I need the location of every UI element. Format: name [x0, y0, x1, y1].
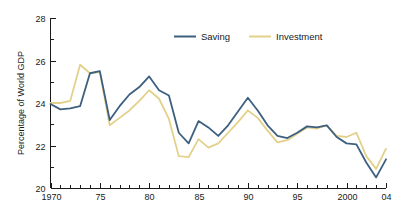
y-tick-label: 26	[35, 57, 45, 67]
y-tick-label: 22	[35, 142, 45, 152]
x-tick-label: 90	[243, 192, 253, 202]
chart-container: Percentage of World GDP 2022242628 19707…	[0, 0, 402, 217]
y-tick-label: 28	[35, 14, 45, 24]
chart-legend: Saving Investment	[174, 31, 323, 42]
x-tick-label: 95	[292, 192, 302, 202]
x-tick-label: 2000	[337, 192, 357, 202]
x-tick-label: 80	[144, 192, 154, 202]
x-axis-ticks	[52, 183, 387, 188]
x-tick-label: 85	[194, 192, 204, 202]
legend-label-investment: Investment	[276, 31, 323, 42]
x-tick-label: 1970	[41, 192, 61, 202]
x-tick-label: 75	[95, 192, 105, 202]
saving-investment-line-chart: Percentage of World GDP 2022242628 19707…	[0, 0, 402, 217]
data-series-group	[51, 65, 387, 178]
y-axis-tick-labels: 2022242628	[35, 14, 45, 194]
y-axis-title: Percentage of World GDP	[16, 51, 26, 155]
series-line-saving	[51, 71, 387, 177]
x-axis-tick-labels: 19707580859095200004	[41, 192, 391, 202]
x-tick-label: 04	[381, 192, 391, 202]
legend-label-saving: Saving	[201, 31, 230, 42]
y-tick-label: 24	[35, 99, 45, 109]
